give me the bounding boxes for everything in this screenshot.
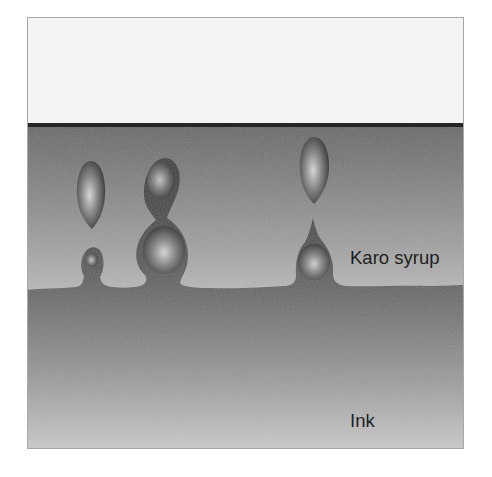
air-syrup-interface-line: [27, 123, 464, 127]
syrup-label: Karo syrup: [350, 247, 439, 268]
ink-label: Ink: [350, 410, 375, 431]
syrup-ink-diagram: Karo syrup Ink: [0, 0, 492, 477]
diagram-frame: Karo syrup Ink: [27, 17, 464, 449]
right-bulb-highlight: [298, 244, 330, 280]
air-layer: [27, 17, 464, 125]
left-bump-highlight: [86, 253, 98, 267]
middle-lower-blob-highlight: [143, 226, 185, 274]
middle-upper-blob-highlight: [147, 162, 175, 198]
